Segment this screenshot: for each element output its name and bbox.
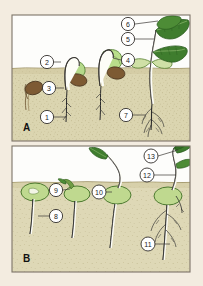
b4-seed — [154, 187, 182, 205]
panel-b: B — [12, 136, 196, 272]
panel-b-letter: B — [23, 253, 30, 264]
callout-4[interactable]: 4 — [121, 53, 134, 66]
svg-text:9: 9 — [54, 187, 58, 194]
callout-6[interactable]: 6 — [121, 17, 134, 30]
panel-a: A — [12, 15, 190, 141]
callout-8[interactable]: 8 — [49, 209, 62, 222]
svg-text:4: 4 — [126, 57, 130, 64]
svg-text:13: 13 — [147, 153, 155, 160]
b3-seed — [103, 186, 131, 204]
callout-10[interactable]: 10 — [92, 185, 106, 199]
svg-text:12: 12 — [143, 172, 151, 179]
callout-5[interactable]: 5 — [121, 32, 134, 45]
svg-text:5: 5 — [126, 36, 130, 43]
svg-text:8: 8 — [54, 213, 58, 220]
svg-text:10: 10 — [95, 189, 103, 196]
svg-text:1: 1 — [45, 114, 49, 121]
svg-text:7: 7 — [124, 112, 128, 119]
callout-11[interactable]: 11 — [141, 237, 155, 251]
svg-text:11: 11 — [144, 241, 151, 248]
callout-2[interactable]: 2 — [40, 55, 53, 68]
callout-12[interactable]: 12 — [140, 168, 154, 182]
germination-figure: A — [0, 0, 203, 286]
svg-text:6: 6 — [126, 21, 130, 28]
panel-a-letter: A — [23, 122, 30, 133]
svg-text:3: 3 — [47, 85, 51, 92]
svg-text:2: 2 — [45, 59, 49, 66]
callout-3[interactable]: 3 — [42, 81, 55, 94]
callout-1[interactable]: 1 — [40, 110, 53, 123]
callout-7[interactable]: 7 — [119, 108, 132, 121]
callout-9[interactable]: 9 — [49, 183, 62, 196]
figure-canvas: A — [0, 0, 203, 286]
b2-seed — [64, 186, 90, 202]
callout-13[interactable]: 13 — [144, 149, 158, 163]
